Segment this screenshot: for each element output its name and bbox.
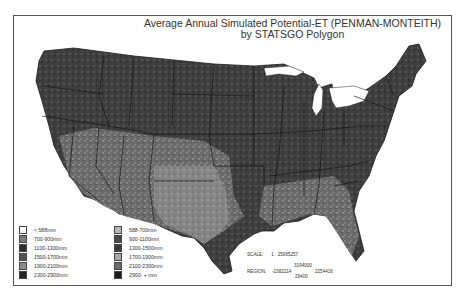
- legend-item: 2100-2300mm: [114, 262, 209, 270]
- legend-item: 1700-1900mm: [114, 253, 209, 261]
- legend-item: 1900-2100mm: [19, 262, 114, 270]
- legend-swatch: [19, 262, 27, 270]
- legend-item: 588-700mm: [114, 226, 209, 234]
- region-label: REGION:: [247, 269, 266, 274]
- legend-label: 900-1100mm: [129, 236, 159, 242]
- legend-label: 700-900mm: [34, 236, 62, 242]
- legend-item: 2300-2900mm: [19, 271, 114, 279]
- legend-item: 1100-1300mm: [19, 244, 114, 252]
- legend-label: 2900- + mm: [129, 272, 157, 278]
- map-title: Average Annual Simulated Potential-ET (P…: [14, 18, 451, 40]
- legend-swatch: [114, 262, 122, 270]
- legend-label: 1500-1700mm: [34, 254, 67, 260]
- scale-value: 1 : 25965257: [271, 252, 298, 257]
- legend: < 588mm 588-700mm 700-900mm 900-1100mm 1…: [19, 226, 209, 279]
- legend-swatch: [114, 271, 122, 279]
- legend-item: < 588mm: [19, 226, 114, 234]
- region-extent: REGION: -2382214 3194000 2254416 29400: [247, 263, 357, 281]
- legend-label: 1700-1900mm: [129, 254, 162, 260]
- legend-swatch: [19, 253, 27, 261]
- legend-label: 2300-2900mm: [34, 272, 67, 278]
- legend-swatch: [19, 226, 27, 234]
- region-bottom: 29400: [295, 274, 308, 279]
- region-top: 3194000: [294, 263, 312, 268]
- legend-item: 900-1100mm: [114, 235, 209, 243]
- map-title-line2: by STATSGO Polygon: [134, 29, 451, 40]
- legend-label: < 588mm: [34, 227, 56, 233]
- legend-item: 700-900mm: [19, 235, 114, 243]
- legend-swatch: [19, 235, 27, 243]
- lake-superior: [264, 66, 304, 76]
- scale-info: SCALE: 1 : 25965257 REGION: -2382214 319…: [247, 252, 357, 281]
- legend-label: 588-700mm: [129, 227, 157, 233]
- region-right: 2254416: [315, 269, 333, 274]
- legend-swatch: [114, 226, 122, 234]
- map-frame: Average Annual Simulated Potential-ET (P…: [13, 15, 452, 286]
- legend-label: 1300-1500mm: [129, 245, 162, 251]
- legend-item: 1300-1500mm: [114, 244, 209, 252]
- legend-swatch: [114, 244, 122, 252]
- legend-swatch: [19, 271, 27, 279]
- legend-swatch: [114, 235, 122, 243]
- legend-label: 2100-2300mm: [129, 263, 162, 269]
- legend-label: 1900-2100mm: [34, 263, 67, 269]
- legend-label: 1100-1300mm: [34, 245, 67, 251]
- region-left: -2382214: [272, 269, 291, 274]
- legend-item: 2900- + mm: [114, 271, 209, 279]
- scale-label: SCALE:: [247, 252, 263, 257]
- legend-swatch: [19, 244, 27, 252]
- legend-item: 1500-1700mm: [19, 253, 114, 261]
- legend-swatch: [114, 253, 122, 261]
